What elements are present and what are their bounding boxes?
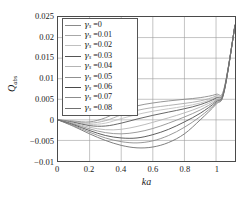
legend-item: γs =0.03 (65, 51, 135, 61)
legend-item: γs =0.07 (65, 93, 135, 103)
y-tick-label: −0.01 (2, 158, 54, 167)
y-tick-label: 0.015 (2, 53, 54, 62)
legend-item: γs =0.02 (65, 41, 135, 51)
legend-line-swatch (65, 97, 81, 98)
legend-line-swatch (65, 35, 81, 36)
legend-label: γs =0.08 (84, 103, 112, 114)
x-tick-label: 0.6 (148, 164, 159, 174)
legend-line-swatch (65, 25, 81, 26)
legend-line-swatch (65, 77, 81, 78)
legend-item: γs =0.05 (65, 72, 135, 82)
legend-item: γs =0 (65, 20, 135, 30)
legend-line-swatch (65, 87, 81, 88)
x-tick-label: 0.4 (116, 164, 127, 174)
legend-line-swatch (65, 45, 81, 46)
legend-line-swatch (65, 108, 81, 109)
x-axis-label: ka (57, 176, 236, 187)
y-axis-label: Qabs (6, 64, 18, 104)
chart-figure: 0.0250.020.0150.010.0050−0.005−0.01 Qabs… (0, 0, 248, 200)
legend: γs =0γs =0.01γs =0.02γs =0.03γs =0.04γs … (62, 18, 138, 116)
x-tick-label: 0.2 (84, 164, 95, 174)
y-axis-label-main: Q (6, 85, 17, 92)
legend-item: γs =0.04 (65, 62, 135, 72)
y-tick-label: 0.02 (2, 33, 54, 42)
y-tick-label: 0 (2, 116, 54, 125)
x-tick-label: 0 (55, 164, 59, 174)
x-tick-label: 1 (215, 164, 219, 174)
legend-item: γs =0.08 (65, 103, 135, 113)
legend-line-swatch (65, 56, 81, 57)
x-tick-label: 0.8 (180, 164, 191, 174)
y-tick-label: 0.025 (2, 12, 54, 21)
y-axis-label-subscript: abs (11, 76, 18, 85)
y-tick-label: −0.005 (2, 137, 54, 146)
legend-line-swatch (65, 66, 81, 67)
